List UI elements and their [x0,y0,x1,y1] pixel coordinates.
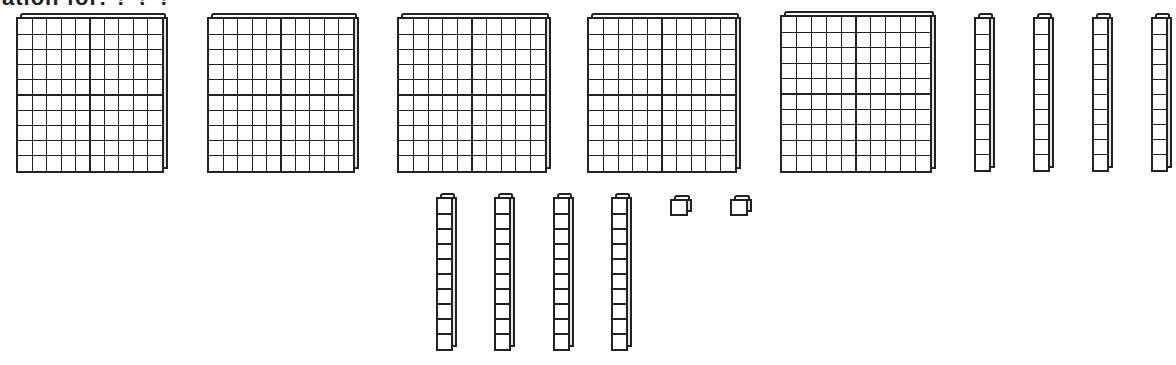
unit-cell [501,49,517,65]
unit-cell [495,318,509,334]
unit-cell [781,140,797,157]
unit-cell [632,140,648,156]
unit-cell [147,18,163,34]
unit-cell [720,79,736,95]
unit-cell [811,16,827,33]
unit-cell [457,64,473,80]
unit-cell [612,318,626,334]
rod-grid [1033,17,1050,172]
unit-cell [691,94,707,110]
unit-cell [104,49,120,65]
unit-cell [89,18,105,34]
unit-cell [61,125,77,141]
unit-cell [705,110,721,126]
unit-cell [266,79,282,95]
unit-cell [975,139,989,155]
unit-cell [457,49,473,65]
unit-cell [870,124,886,141]
unit-cell [75,110,91,126]
unit-cell [486,64,502,80]
unit-cell [295,49,311,65]
unit-cell [280,49,296,65]
unit-cell [61,94,77,110]
flat-grid [780,15,932,173]
unit-cell [398,34,414,50]
unit-cell [647,18,663,34]
unit-cell [811,63,827,80]
unit-cell [705,64,721,80]
unit-cell [588,79,604,95]
unit-cell [796,109,812,126]
unit-cell [486,94,502,110]
unit-cell [841,124,857,141]
flat-block [587,13,741,173]
unit-cell [428,34,444,50]
unit-cell [603,94,619,110]
unit-cell [885,16,901,33]
unit-cell [266,125,282,141]
unit-cell [720,34,736,50]
unit-cell [252,34,268,50]
rod-block [1033,13,1054,172]
unit-cell [588,140,604,156]
unit-cell [486,125,502,141]
unit-cell [900,109,916,126]
unit-cell [900,63,916,80]
unit-cell [612,288,626,304]
unit-cell [661,110,677,126]
unit-cell [554,243,568,259]
unit-cell [900,140,916,157]
unit-cell [398,110,414,126]
unit-cell [118,79,134,95]
unit-cell [796,32,812,49]
unit-cell [781,109,797,126]
unit-cell [237,155,253,171]
unit-cell [811,109,827,126]
unit-cell [1093,94,1107,110]
unit-cell [413,18,429,34]
unit-cell [796,124,812,141]
unit-front-face [670,199,688,216]
unit-cell [826,32,842,49]
unit-cell [1093,79,1107,95]
unit-cell [104,64,120,80]
unit-cell [338,125,354,141]
unit-cell [17,140,33,156]
unit-cell [661,94,677,110]
unit-cell [975,64,989,80]
unit-cell [612,198,626,214]
unit-cell [437,243,451,259]
unit-cell [841,32,857,49]
unit-cell [618,18,634,34]
rod-grid [974,17,991,172]
rod-block [553,193,574,351]
unit-cell [75,155,91,171]
unit-cell [32,94,48,110]
unit-cell [612,303,626,319]
unit-cell [603,125,619,141]
unit-cell [1093,34,1107,50]
rod-block [611,193,632,351]
unit-cell [266,140,282,156]
unit-cell [223,64,239,80]
unit-cell [720,140,736,156]
unit-cell [437,288,451,304]
unit-cell [442,125,458,141]
unit-cell [32,155,48,171]
rod-block [1151,13,1172,172]
unit-cell [618,125,634,141]
unit-cell [1034,94,1048,110]
unit-cell [720,64,736,80]
unit-cell [796,155,812,172]
unit-cell [554,213,568,229]
unit-cell [1152,64,1166,80]
unit-cell [75,34,91,50]
unit-cell [338,18,354,34]
unit-cell [1093,109,1107,125]
unit-cell [413,125,429,141]
unit-cell [501,18,517,34]
unit-cell [554,198,568,214]
unit-cell [632,64,648,80]
unit-cell [266,94,282,110]
unit-cell [1034,34,1048,50]
